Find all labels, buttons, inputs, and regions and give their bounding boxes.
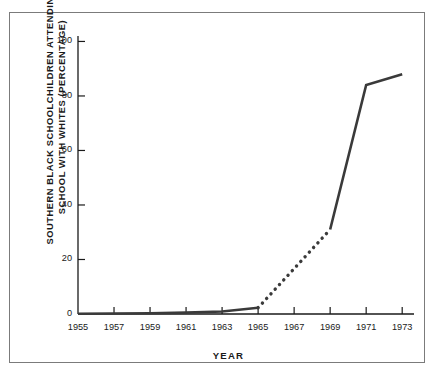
data-line-dotted bbox=[258, 230, 330, 308]
y-axis-tick-label: 40 bbox=[44, 199, 72, 209]
y-axis-ticks bbox=[78, 41, 85, 259]
y-axis-tick-label: 60 bbox=[44, 144, 72, 154]
y-axis-tick-label: 100 bbox=[44, 35, 72, 45]
y-axis-tick-label: 20 bbox=[44, 253, 72, 263]
axes bbox=[78, 36, 414, 314]
x-axis-label: YEAR bbox=[10, 350, 437, 361]
x-axis-tick-label: 1973 bbox=[378, 322, 426, 332]
data-line-solid bbox=[78, 308, 258, 314]
chart-figure: SOUTHERN BLACK SCHOOLCHILDREN ATTENDING … bbox=[0, 0, 437, 374]
plot-area bbox=[10, 13, 426, 364]
y-axis-tick-label: 0 bbox=[44, 308, 72, 318]
data-series bbox=[78, 74, 402, 314]
data-line-solid bbox=[330, 74, 402, 229]
chart-frame: SOUTHERN BLACK SCHOOLCHILDREN ATTENDING … bbox=[9, 12, 425, 363]
y-axis-tick-label: 80 bbox=[44, 90, 72, 100]
